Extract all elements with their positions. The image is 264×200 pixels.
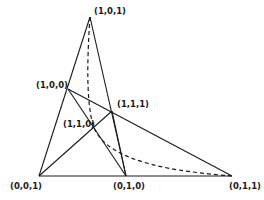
label-0-0-1: (0,0,1) (10, 181, 42, 191)
label-0-1-1: (0,1,1) (229, 181, 261, 191)
label-0-1-0: (0,1,0) (113, 181, 145, 191)
edge-100-011 (68, 89, 232, 176)
projective-triangle-diagram: (1,0,1) (1,0,0) (1,1,1) (1,1,0) (0,0,1) … (0, 0, 264, 200)
label-1-0-1: (1,0,1) (94, 6, 126, 16)
dashed-conic-curve (88, 17, 232, 176)
label-1-1-1: (1,1,1) (117, 99, 149, 109)
labels-group: (1,0,1) (1,0,0) (1,1,1) (1,1,0) (0,0,1) … (10, 6, 261, 191)
label-1-0-0: (1,0,0) (36, 80, 68, 90)
label-1-1-0: (1,1,0) (63, 119, 95, 129)
edges-group (39, 17, 232, 176)
